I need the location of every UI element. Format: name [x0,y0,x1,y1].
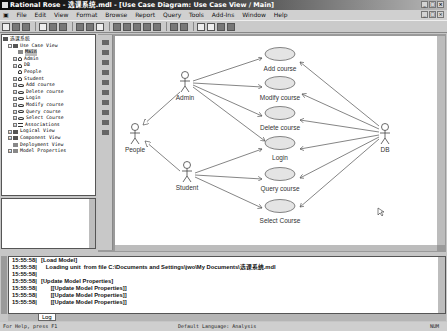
doc-close-button[interactable]: × [437,11,444,18]
generalization-tool-icon[interactable] [102,130,109,135]
menu-report[interactable]: Report [135,10,155,20]
tab-log[interactable]: Log [38,314,56,321]
menu-help[interactable]: Help [274,10,288,20]
expand-toggle-icon[interactable]: + [13,123,17,127]
tree-item[interactable]: Main [3,49,94,56]
tree-item[interactable]: -Use Case View [3,43,94,50]
tree-item[interactable]: +Model Properties [3,148,94,155]
undo-fit-icon[interactable] [227,23,235,31]
menu-tools[interactable]: Tools [189,10,204,20]
menu-query[interactable]: Query [163,10,181,20]
open-icon[interactable] [12,23,20,31]
status-bar: For Help, press F1 Default Language: Ana… [0,322,447,331]
tree-item[interactable]: +Modify course [3,102,94,109]
cut-icon[interactable] [39,23,47,31]
actor-people[interactable]: People [125,124,146,155]
print-icon[interactable] [76,23,84,31]
selection-tool-icon[interactable] [102,40,109,45]
expand-toggle-icon[interactable]: + [8,149,12,153]
use-case-login[interactable]: Login [265,137,295,163]
paste-icon[interactable] [59,23,67,31]
use-case-select-course[interactable]: Select Course [260,200,301,225]
doc-minimize-button[interactable]: _ [421,11,428,18]
tree-item[interactable]: People [3,69,94,76]
expand-toggle-icon[interactable]: + [13,103,17,107]
diagram-horizontal-scrollbar[interactable] [115,245,437,251]
context-help-icon[interactable] [86,23,94,31]
save-icon[interactable] [22,23,30,31]
tree-item[interactable]: +Admin [3,56,94,63]
tree-item[interactable]: +Student [3,76,94,83]
tree-root[interactable]: 选课系统 [3,36,94,43]
menu-view[interactable]: View [54,10,68,20]
zoom-out-icon[interactable] [207,23,215,31]
zoom-in-icon[interactable] [197,23,205,31]
log-scrollbar[interactable] [438,257,445,313]
browse-class-diagram-icon[interactable] [113,23,121,31]
menu-file[interactable]: File [17,10,27,20]
view-doc-icon[interactable] [96,23,104,31]
doc-scrollbar[interactable] [89,199,95,248]
expand-toggle-icon[interactable]: + [13,97,17,101]
expand-toggle-icon[interactable]: - [8,44,12,48]
tree-item[interactable]: +Component View [3,135,94,142]
doc-restore-button[interactable]: □ [429,11,436,18]
expand-toggle-icon[interactable]: + [13,83,17,87]
documentation-pane[interactable] [1,198,96,249]
note-tool-icon[interactable] [102,60,109,65]
expand-toggle-icon[interactable]: + [8,130,12,134]
browse-component-diagram-icon[interactable] [133,23,141,31]
model-browser-tree[interactable]: 选课系统 -Use Case ViewMain+Admin+DBPeople+S… [1,34,96,196]
tree-item[interactable]: +Associations [3,122,94,129]
menu-format[interactable]: Format [76,10,97,20]
menu-bar: ▣ File Edit View Format Browse Report Qu… [0,10,447,20]
text-box-tool-icon[interactable] [102,50,109,55]
actor-tool-icon[interactable] [102,100,109,105]
tree-item[interactable]: +Logical View [3,128,94,135]
browse-deployment-diagram-icon[interactable] [153,23,161,31]
actor-admin[interactable]: Admin [176,72,195,102]
log-window[interactable]: 15:55:58|[Load Model]15:55:58| Loading u… [8,256,446,314]
anchor-note-tool-icon[interactable] [102,70,109,75]
browse-parent-icon[interactable] [170,23,178,31]
tree-item[interactable]: +DB [3,62,94,69]
menu-browse[interactable]: Browse [105,10,127,20]
browse-state-diagram-icon[interactable] [143,23,151,31]
browse-interaction-diagram-icon[interactable] [123,23,131,31]
expand-toggle-icon[interactable]: + [8,136,12,140]
expand-toggle-icon[interactable]: + [13,110,17,114]
use-case-add-course[interactable]: Add course [264,48,297,73]
use-case-query-course[interactable]: Query course [260,168,299,194]
association-tool-icon[interactable] [102,110,109,115]
use-case-delete-course[interactable]: Delete course [260,107,300,132]
actor-student[interactable]: Student [176,162,199,192]
expand-toggle-icon[interactable]: + [13,57,17,61]
minimize-button[interactable]: _ [421,1,428,8]
expand-toggle-icon[interactable]: + [13,116,17,120]
expand-toggle-icon[interactable]: + [13,77,17,81]
copy-icon[interactable] [49,23,57,31]
use-case-tool-icon[interactable] [102,90,109,95]
browse-previous-icon[interactable] [180,23,188,31]
diagram-vertical-scrollbar[interactable] [437,36,445,245]
tree-item[interactable]: +Select Course [3,115,94,122]
tree-item[interactable]: +Login [3,95,94,102]
maximize-button[interactable]: □ [429,1,436,8]
close-button[interactable]: × [437,1,444,8]
tree-item[interactable]: +Add course [3,82,94,89]
new-icon[interactable] [2,23,10,31]
menu-window[interactable]: Window [242,10,266,20]
menu-add-ins[interactable]: Add-Ins [212,10,234,20]
dependency-tool-icon[interactable] [102,120,109,125]
use-case-modify-course[interactable]: Modify course [260,77,301,103]
package-tool-icon[interactable] [102,80,109,85]
expand-toggle-icon[interactable]: + [13,64,17,68]
fit-in-window-icon[interactable] [217,23,225,31]
use-case-diagram-canvas[interactable]: Admin People Student DB Add courseModify… [115,36,437,245]
menu-edit[interactable]: Edit [35,10,47,20]
expand-toggle-icon[interactable]: + [13,90,17,94]
tree-item[interactable]: Deployment View [3,142,94,149]
actor-db[interactable]: DB [380,124,390,154]
tree-item[interactable]: +Query course [3,109,94,116]
tree-item[interactable]: +Delete course [3,89,94,96]
